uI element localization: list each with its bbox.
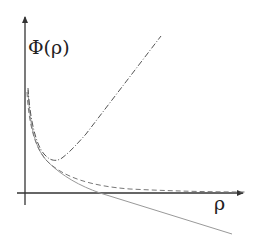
dashed-curve <box>27 92 245 192</box>
y-axis-label: Φ(ρ) <box>28 36 70 58</box>
x-axis-label: ρ <box>214 192 225 214</box>
solid-curve <box>28 90 232 234</box>
